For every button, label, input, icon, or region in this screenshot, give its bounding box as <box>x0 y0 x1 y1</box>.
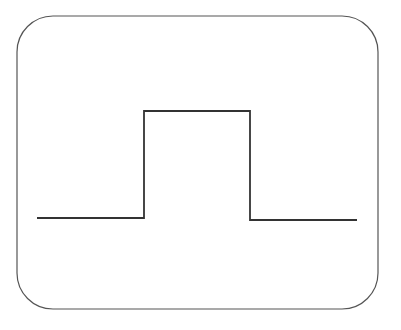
rounded-frame <box>17 16 378 309</box>
rectangular-pulse-line <box>37 111 357 220</box>
pulse-diagram <box>0 0 401 330</box>
diagram-svg <box>0 0 401 330</box>
